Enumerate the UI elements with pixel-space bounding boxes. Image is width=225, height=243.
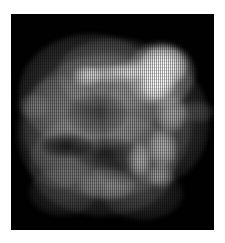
streak-nodule-left xyxy=(73,66,101,86)
organ-bulk-center xyxy=(23,54,191,198)
hotspot-halo xyxy=(127,42,195,106)
organ-bulk-upper-dome xyxy=(57,38,173,110)
primary-hotspot-tail xyxy=(140,68,174,100)
photopenic-void-center xyxy=(73,138,141,170)
organ-bulk-left-lobe xyxy=(17,76,101,188)
photopenic-void-inferior xyxy=(99,160,143,184)
secondary-nodule-upper xyxy=(156,96,186,132)
linear-uptake-streak xyxy=(81,65,149,83)
scan-alt-text: Grayscale nuclear medicine scan of an ir… xyxy=(0,0,1,1)
emission-intensity-map xyxy=(11,14,214,230)
scan-image-viewer: Grayscale nuclear medicine scan of an ir… xyxy=(0,0,225,243)
scan-frame xyxy=(11,14,214,230)
secondary-nodule-mid xyxy=(149,129,177,167)
faint-nodule-inferior xyxy=(149,164,173,188)
lower-right-taper xyxy=(103,168,183,220)
right-protrusion-spur xyxy=(179,101,214,123)
organ-bulk-right xyxy=(105,60,209,184)
secondary-nodule-lower xyxy=(128,144,150,176)
primary-focal-hotspot xyxy=(139,46,187,86)
streak-bridge xyxy=(111,62,151,78)
organ-bulk-lower xyxy=(29,112,177,216)
photopenic-void-upper xyxy=(67,94,127,134)
left-protrusion-spur xyxy=(17,94,49,118)
organ-bulk-upper-left xyxy=(19,34,163,150)
photopenic-void-left xyxy=(41,134,93,158)
rim-uptake-lower-center xyxy=(79,168,135,200)
lower-left-taper xyxy=(29,168,97,216)
